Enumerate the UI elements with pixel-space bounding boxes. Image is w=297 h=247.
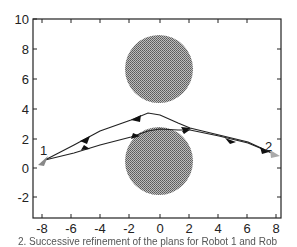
svg-text:4: 4	[214, 221, 221, 236]
svg-text:-2: -2	[17, 190, 29, 205]
svg-text:2: 2	[185, 221, 192, 236]
svg-text:4: 4	[22, 102, 29, 117]
svg-text:-6: -6	[65, 221, 77, 236]
svg-text:6: 6	[243, 221, 250, 236]
svg-text:2: 2	[22, 132, 29, 147]
svg-text:10: 10	[15, 12, 29, 27]
svg-text:-2: -2	[123, 221, 135, 236]
start-label: 1	[40, 143, 47, 158]
end-label: 2	[265, 139, 272, 154]
svg-text:-8: -8	[36, 221, 48, 236]
svg-text:8: 8	[22, 42, 29, 57]
figure-caption: 2. Successive refinement of the plans fo…	[18, 236, 277, 247]
upper-obstacle	[125, 35, 193, 103]
svg-text:8: 8	[272, 221, 279, 236]
y-tick-labels: 10 8 6 4 2 0 -2	[15, 12, 29, 205]
x-tick-labels: -8 -6 -4 -2 0 2 4 6 8	[36, 221, 279, 236]
svg-text:0: 0	[22, 161, 29, 176]
svg-text:-4: -4	[94, 221, 106, 236]
svg-text:6: 6	[22, 72, 29, 87]
svg-text:0: 0	[156, 221, 163, 236]
